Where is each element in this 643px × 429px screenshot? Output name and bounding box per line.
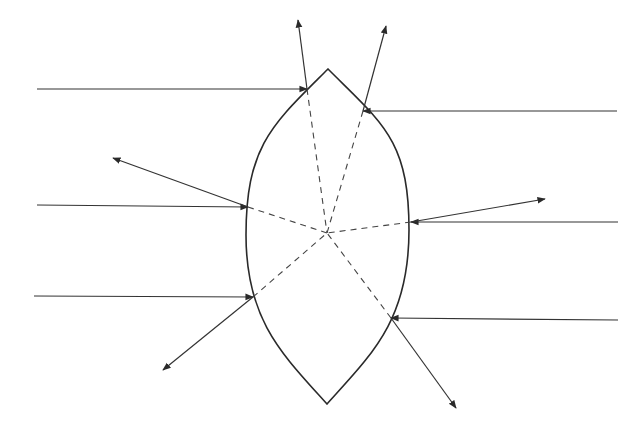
normal-line-left-2 <box>248 207 327 233</box>
incident-ray-left-2 <box>37 205 248 207</box>
reflected-ray-right-1 <box>363 26 386 111</box>
reflected-ray-left-3 <box>163 297 253 370</box>
normal-line-right-2 <box>327 222 411 233</box>
normal-lines <box>248 89 411 318</box>
reflected-ray-right-3 <box>391 318 456 408</box>
normal-line-left-1 <box>307 89 327 233</box>
incident-ray-right-3 <box>391 318 618 320</box>
normal-line-right-1 <box>327 111 363 233</box>
lens-reflection-diagram <box>0 0 643 429</box>
reflected-ray-left-2 <box>113 158 248 207</box>
reflected-ray-left-1 <box>298 20 307 89</box>
incident-ray-left-3 <box>34 296 253 297</box>
rays <box>34 20 618 408</box>
reflected-ray-right-2 <box>411 199 545 222</box>
lens-outline <box>246 69 409 404</box>
lens <box>246 69 409 404</box>
normal-line-left-3 <box>253 233 327 297</box>
normal-line-right-3 <box>327 233 391 318</box>
